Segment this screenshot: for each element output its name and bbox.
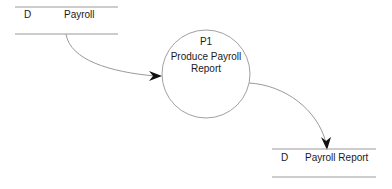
process-p1-label: P1 Produce Payroll Report	[162, 36, 250, 75]
datastore-payroll-report-name[interactable]: Payroll Report	[305, 152, 368, 164]
process-p1-name-line2: Report	[162, 63, 250, 75]
flow-payroll-to-p1	[66, 34, 155, 76]
datastore-payroll-name[interactable]: Payroll	[64, 9, 95, 21]
flow-p1-to-payroll-report	[249, 83, 326, 143]
process-p1-id: P1	[162, 36, 250, 48]
datastore-payroll-id: D	[24, 9, 31, 21]
arrowhead-icon	[321, 137, 331, 150]
datastore-payroll-report-id: D	[281, 152, 288, 164]
process-p1-name-line1: Produce Payroll	[162, 51, 250, 63]
